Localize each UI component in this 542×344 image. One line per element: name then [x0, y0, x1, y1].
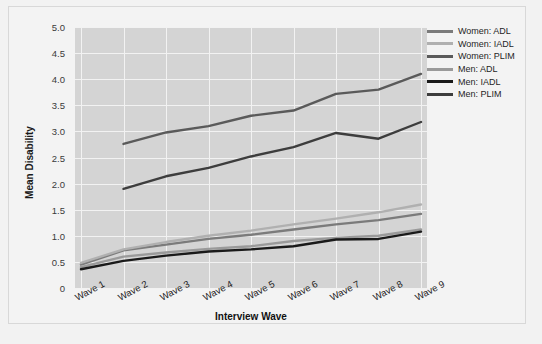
legend-swatch-icon — [427, 42, 453, 45]
legend-item-label: Men: PLIM — [458, 89, 502, 99]
legend-swatch-icon — [427, 93, 453, 96]
y-axis-tick-label: 4.5 — [9, 48, 65, 59]
legend-swatch-icon — [427, 55, 453, 58]
legend-item[interactable]: Men: PLIM — [427, 88, 527, 101]
y-axis-tick-label: 0 — [9, 283, 65, 294]
chart-figure: 00.51.01.52.02.53.03.54.04.55.0 Mean Dis… — [8, 6, 526, 324]
y-axis-tick-label: 1.5 — [9, 204, 65, 215]
x-axis-label: Interview Wave — [75, 311, 427, 322]
plot-area — [75, 27, 427, 288]
y-axis-tick-label: 2.5 — [9, 152, 65, 163]
legend-item[interactable]: Men: ADL — [427, 63, 527, 76]
y-axis-tick-label: 0.5 — [9, 256, 65, 267]
y-axis-tick-label: 1.0 — [9, 230, 65, 241]
legend-item[interactable]: Men: IADL — [427, 75, 527, 88]
y-axis-tick-label: 4.0 — [9, 74, 65, 85]
legend-item[interactable]: Women: PLIM — [427, 50, 527, 63]
series-line — [124, 74, 422, 144]
y-axis-tick-label: 5.0 — [9, 22, 65, 33]
legend-item[interactable]: Women: ADL — [427, 25, 527, 38]
y-axis-label: Mean Disability — [24, 126, 35, 199]
legend-item-label: Men: IADL — [458, 77, 501, 87]
y-axis-tick-label: 2.0 — [9, 178, 65, 189]
y-axis-tick-label: 3.5 — [9, 100, 65, 111]
legend-item-label: Women: PLIM — [458, 51, 515, 61]
legend-item-label: Women: ADL — [458, 26, 511, 36]
legend-swatch-icon — [427, 30, 453, 33]
legend-swatch-icon — [427, 80, 453, 83]
legend-item-label: Women: IADL — [458, 39, 514, 49]
chart-legend: Women: ADLWomen: IADLWomen: PLIMMen: ADL… — [427, 25, 527, 101]
legend-item-label: Men: ADL — [458, 64, 498, 74]
y-axis-tick-label: 3.0 — [9, 126, 65, 137]
legend-item[interactable]: Women: IADL — [427, 38, 527, 51]
series-lines — [75, 27, 427, 288]
legend-swatch-icon — [427, 68, 453, 71]
